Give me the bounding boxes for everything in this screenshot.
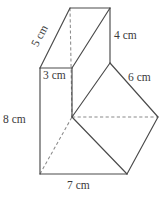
geometry-figure: 5 cm 4 cm 3 cm 6 cm 8 cm 7 cm xyxy=(0,0,167,204)
label-slant-right: 6 cm xyxy=(128,72,151,84)
label-depth-front-top: 3 cm xyxy=(43,70,66,82)
edge-tri-upper-left xyxy=(72,63,110,117)
edge-tri-lower-left xyxy=(72,117,127,174)
label-vertical-right-top: 4 cm xyxy=(114,30,137,42)
edge-tri-lower-right xyxy=(127,117,158,174)
edge-top-slant-right xyxy=(72,8,110,68)
visible-edges-group xyxy=(40,8,158,174)
hidden-edge-diagonal-base xyxy=(40,117,72,174)
label-vertical-left: 8 cm xyxy=(3,114,26,126)
label-base-bottom: 7 cm xyxy=(67,180,90,192)
solid-line-drawing xyxy=(0,0,167,204)
